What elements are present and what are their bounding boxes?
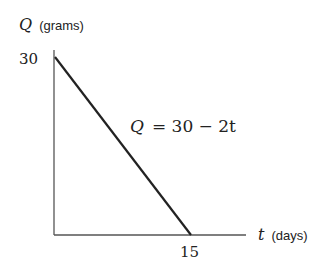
y-tick-label: 30 bbox=[19, 50, 38, 68]
chart: Q (grams) 30 15 t (days) Q = 30 − 2t bbox=[0, 0, 332, 277]
equation-annotation: Q = 30 − 2t bbox=[130, 116, 236, 136]
series-line bbox=[55, 57, 191, 235]
x-axis-label: t (days) bbox=[258, 225, 308, 244]
y-axis-label: Q (grams) bbox=[19, 15, 84, 34]
x-tick-label: 15 bbox=[180, 243, 199, 261]
